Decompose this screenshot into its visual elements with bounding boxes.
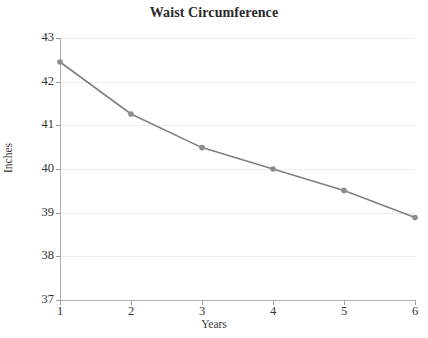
series-line-waist-circumference xyxy=(60,62,415,217)
chart-container: Waist Circumference Inches Years 3738394… xyxy=(0,0,428,338)
data-point-marker xyxy=(270,166,276,172)
data-point-marker xyxy=(57,59,63,65)
data-point-marker xyxy=(199,145,205,151)
data-point-marker xyxy=(128,111,134,117)
data-point-marker xyxy=(412,215,418,221)
data-series-layer xyxy=(0,0,428,338)
series-markers xyxy=(57,59,418,220)
data-point-marker xyxy=(341,188,347,194)
